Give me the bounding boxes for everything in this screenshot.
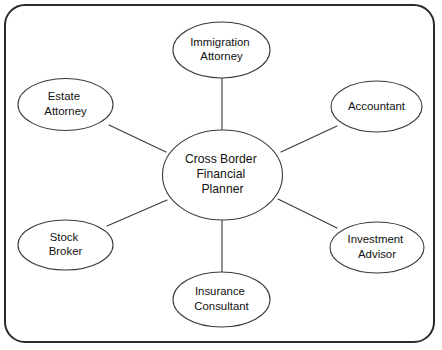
node-cross-border-financial-planner[interactable]: Cross Border Financial Planner: [163, 130, 283, 220]
edge-hub-to-stock-broker: [107, 200, 167, 226]
edge-hub-to-investment-advisor: [278, 199, 337, 228]
node-label-accountant: Accountant: [348, 100, 406, 112]
node-immigration-attorney[interactable]: Immigration Attorney: [173, 22, 270, 78]
hub-and-spoke-diagram: Immigration Attorney Accountant Investme…: [0, 0, 442, 350]
node-accountant[interactable]: Accountant: [331, 81, 422, 132]
node-investment-advisor[interactable]: Investment Advisor: [330, 222, 424, 273]
node-stock-broker[interactable]: Stock Broker: [18, 220, 113, 270]
node-insurance-consultant[interactable]: Insurance Consultant: [173, 272, 270, 327]
diagram-canvas: Immigration Attorney Accountant Investme…: [0, 0, 442, 350]
edge-hub-to-estate-attorney: [109, 125, 166, 152]
edge-hub-to-accountant: [281, 126, 337, 152]
node-estate-attorney[interactable]: Estate Attorney: [18, 79, 113, 131]
